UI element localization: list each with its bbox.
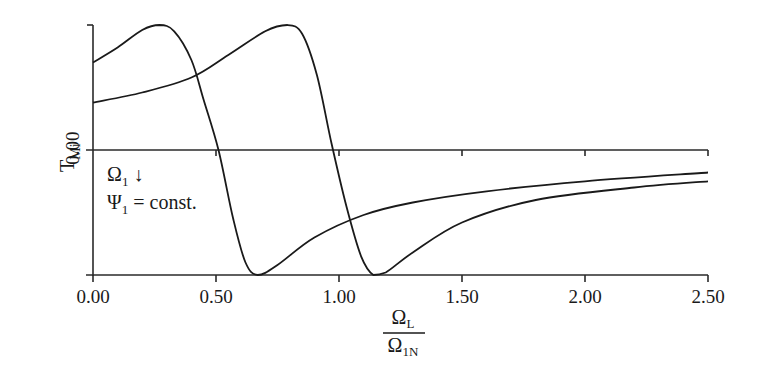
x-tick-label: 1.00 bbox=[322, 286, 355, 307]
x-tick-label: 0.00 bbox=[76, 286, 109, 307]
svg-text:Ψ1 = const.: Ψ1 = const. bbox=[107, 191, 197, 217]
axes bbox=[86, 25, 708, 282]
x-label-denominator-sub: 1N bbox=[402, 344, 419, 359]
x-axis-label: ΩL Ω1N bbox=[383, 306, 425, 359]
svg-text:ΩL: ΩL bbox=[392, 306, 415, 331]
annot-omega-symbol: Ω bbox=[107, 163, 122, 185]
chart-canvas: 0.000.501.001.502.002.50 TMi 0.00 Ω1 ↓ Ψ… bbox=[0, 0, 779, 370]
x-tick-label: 0.50 bbox=[199, 286, 232, 307]
annotation-omega1: Ω1 ↓ bbox=[107, 163, 143, 189]
annot-arrow-down: ↓ bbox=[128, 163, 143, 185]
x-label-denominator: Ω bbox=[388, 334, 403, 356]
y-tick-zero-text: 0.00 bbox=[62, 131, 83, 164]
x-label-numerator: Ω bbox=[392, 306, 407, 328]
x-tick-label: 2.50 bbox=[691, 286, 724, 307]
x-tick-labels: 0.000.501.001.502.002.50 bbox=[76, 286, 724, 307]
x-label-numerator-sub: L bbox=[406, 316, 414, 331]
y-tick-label-zero: 0.00 bbox=[62, 131, 83, 164]
annot-psi-symbol: Ψ bbox=[107, 191, 122, 213]
svg-text:Ω1N: Ω1N bbox=[388, 334, 419, 359]
x-tick-label: 1.50 bbox=[445, 286, 478, 307]
svg-text:Ω1 ↓: Ω1 ↓ bbox=[107, 163, 143, 189]
annot-const: = const. bbox=[128, 191, 197, 213]
annotation-psi1: Ψ1 = const. bbox=[107, 191, 197, 217]
x-tick-label: 2.00 bbox=[568, 286, 601, 307]
